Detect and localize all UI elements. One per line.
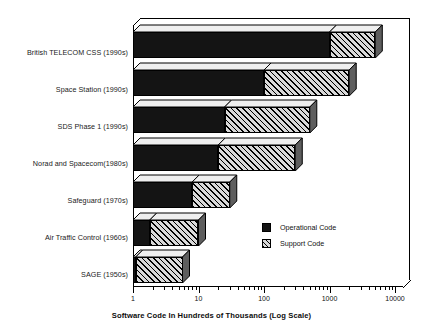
x-tick-minor <box>295 287 296 290</box>
x-tick-minor <box>218 287 219 290</box>
x-tick-label-1: 1 <box>131 295 135 303</box>
x-tick-minor <box>323 287 324 290</box>
x-tick-minor <box>327 287 328 290</box>
x-tick-minor <box>284 287 285 290</box>
x-tick-minor <box>254 287 255 290</box>
x-tick-major <box>264 287 265 293</box>
x-tick-minor <box>172 287 173 290</box>
legend-label-support-code: Support Code <box>280 239 324 248</box>
x-tick-minor <box>319 287 320 290</box>
x-tick-minor <box>315 287 316 290</box>
x-tick-minor <box>380 287 381 290</box>
x-tick-minor <box>375 287 376 290</box>
x-tick-minor <box>258 287 259 290</box>
x-tick-minor <box>361 287 362 290</box>
x-tick-minor <box>238 287 239 290</box>
legend-swatch-operational-icon <box>262 223 271 232</box>
x-tick-minor <box>310 287 311 290</box>
x-tick-minor <box>385 287 386 290</box>
legend-item-operational-code: Operational Code <box>262 219 336 235</box>
bar-segment-support <box>218 145 295 171</box>
x-tick-minor <box>249 287 250 290</box>
bar-segment-operational <box>133 145 218 171</box>
x-tick-minor <box>192 287 193 290</box>
legend-label-operational-code: Operational Code <box>280 223 336 232</box>
bar-segment-operational <box>133 220 150 246</box>
bar-segment-operational <box>133 32 330 58</box>
bar-segment-support <box>264 70 349 96</box>
x-tick-minor <box>369 287 370 290</box>
x-tick-minor <box>303 287 304 290</box>
x-tick-major <box>199 287 200 293</box>
chart-legend: Operational Code Support Code <box>262 219 336 251</box>
bars-layer <box>0 0 423 336</box>
legend-swatch-support-icon <box>262 239 271 248</box>
x-tick-minor <box>389 287 390 290</box>
legend-item-support-code: Support Code <box>262 235 336 251</box>
x-tick-minor <box>392 287 393 290</box>
x-axis-ticks <box>133 287 403 295</box>
x-tick-minor <box>230 287 231 290</box>
x-tick-minor <box>188 287 189 290</box>
x-tick-minor <box>244 287 245 290</box>
x-tick-minor <box>349 287 350 290</box>
bar-segment-support <box>330 32 376 58</box>
x-tick-minor <box>196 287 197 290</box>
x-tick-minor <box>153 287 154 290</box>
chart-container: British TELECOM CSS (1990s) Space Statio… <box>0 0 423 336</box>
bar-segment-support <box>136 257 183 283</box>
x-tick-minor <box>179 287 180 290</box>
x-tick-label-10000: 10000 <box>385 295 404 303</box>
x-tick-minor <box>261 287 262 290</box>
bar-segment-support <box>225 107 310 133</box>
bar-segment-operational <box>133 70 264 96</box>
x-tick-major <box>133 287 134 293</box>
x-tick-major <box>330 287 331 293</box>
bar-segment-operational <box>133 182 192 208</box>
bar-segment-operational <box>133 107 225 133</box>
x-axis-title: Software Code In Hundreds of Thousands (… <box>0 311 423 320</box>
x-tick-label-10: 10 <box>195 295 203 303</box>
x-tick-minor <box>164 287 165 290</box>
x-tick-major <box>395 287 396 293</box>
x-tick-label-1000: 1000 <box>322 295 338 303</box>
x-tick-label-100: 100 <box>258 295 270 303</box>
bar-segment-support <box>150 220 199 246</box>
x-tick-minor <box>184 287 185 290</box>
bar-segment-support <box>192 182 230 208</box>
